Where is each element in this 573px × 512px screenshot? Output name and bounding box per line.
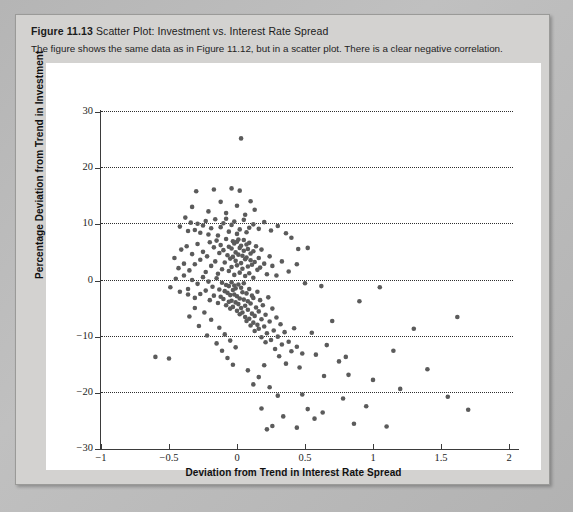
scatter-point <box>305 407 310 412</box>
scatter-point <box>193 262 198 267</box>
scatter-point <box>216 301 221 306</box>
scatter-point <box>297 365 302 370</box>
scatter-point <box>248 301 253 306</box>
scatter-point <box>246 307 251 312</box>
scatter-point <box>289 236 294 241</box>
scatter-point <box>237 296 242 301</box>
scatter-point <box>330 319 335 324</box>
scatter-point <box>242 297 247 302</box>
scatter-point <box>270 264 275 269</box>
scatter-point <box>187 268 192 273</box>
scatter-point <box>256 327 261 332</box>
scatter-point <box>218 200 223 205</box>
scatter-point <box>244 230 249 235</box>
scatter-point <box>247 287 252 292</box>
scatter-point <box>222 332 227 337</box>
scatter-point <box>398 387 403 392</box>
scatter-point <box>251 320 256 325</box>
scatter-point <box>255 289 260 294</box>
scatter-point <box>274 315 279 320</box>
scatter-point <box>378 285 383 290</box>
scatter-point <box>281 414 286 419</box>
scatter-point <box>251 296 256 301</box>
figure-title-text: Scatter Plot: Investment vs. Interest Ra… <box>96 25 329 37</box>
scatter-point <box>224 211 229 216</box>
scatter-point <box>284 361 289 366</box>
scatter-point <box>276 393 281 398</box>
scatter-point <box>176 266 181 271</box>
scatter-point <box>319 284 324 289</box>
scatter-point <box>259 406 264 411</box>
scatter-point <box>178 224 183 229</box>
scatter-point <box>371 378 376 383</box>
scatter-point <box>286 339 291 344</box>
scatter-point <box>229 186 234 191</box>
plot-panel: −30−20−100102030 −1−0.500.511.52 Percent… <box>46 63 541 470</box>
scatter-point <box>280 342 285 347</box>
scatter-point <box>242 238 247 243</box>
scatter-point <box>256 375 261 380</box>
scatter-point <box>262 324 267 329</box>
scatter-point <box>231 362 236 367</box>
scatter-point <box>233 259 238 264</box>
x-axis-title: Deviation from Trend in Interest Rate Sp… <box>46 467 541 478</box>
scatter-point <box>341 396 346 401</box>
scatter-point <box>216 271 221 276</box>
scatter-point <box>251 222 256 227</box>
scatter-point <box>182 261 187 266</box>
scatter-point <box>255 323 260 328</box>
scatter-point <box>232 219 237 224</box>
scatter-point <box>265 272 270 277</box>
scatter-point <box>231 305 236 310</box>
scatter-point <box>262 220 267 225</box>
figure-container: Figure 11.13 Scatter Plot: Investment vs… <box>15 14 550 485</box>
scatter-point <box>259 317 264 322</box>
scatter-point <box>186 292 191 297</box>
scatter-point <box>203 219 208 224</box>
scatter-point <box>254 244 259 249</box>
figure-number: Figure 11.13 <box>31 25 93 37</box>
scatter-point <box>205 254 210 259</box>
scatter-point <box>248 199 253 204</box>
scatter-point <box>425 367 430 372</box>
scatter-point <box>267 385 272 390</box>
scatter-point <box>270 306 275 311</box>
scatter-point <box>205 333 210 338</box>
scatter-point <box>263 340 268 345</box>
scatter-point <box>289 349 294 354</box>
scatter-point <box>243 212 248 217</box>
scatter-point <box>239 136 244 141</box>
scatter-point <box>259 247 264 252</box>
scatter-point <box>278 322 283 327</box>
scatter-point <box>259 335 264 340</box>
scatter-point <box>178 289 183 294</box>
scatter-point <box>292 326 297 331</box>
scatter-point <box>227 269 232 274</box>
scatter-point <box>466 407 471 412</box>
scatter-point <box>172 256 177 261</box>
scatter-point <box>182 273 187 278</box>
scatter-point <box>312 416 317 421</box>
scatter-point <box>203 270 208 275</box>
plot-area: −30−20−100102030 −1−0.500.511.52 Percent… <box>46 63 541 470</box>
scatter-point <box>242 248 247 253</box>
scatter-point <box>198 292 203 297</box>
scatter-point <box>228 293 233 298</box>
scatter-point <box>280 259 285 264</box>
scatter-point <box>256 256 261 261</box>
scatter-point <box>412 327 417 332</box>
scatter-point <box>232 273 237 278</box>
scatter-point <box>303 281 308 286</box>
scatter-point <box>446 394 451 399</box>
scatter-point <box>247 225 252 230</box>
scatter-point <box>168 285 173 290</box>
scatter-point <box>187 314 192 319</box>
scatter-point <box>206 232 211 237</box>
scatter-point <box>243 274 248 279</box>
scatter-point <box>193 296 198 301</box>
scatter-point <box>265 331 270 336</box>
scatter-point <box>271 328 276 333</box>
scatter-point <box>228 338 233 343</box>
scatter-point <box>209 264 214 269</box>
scatter-point <box>220 267 225 272</box>
